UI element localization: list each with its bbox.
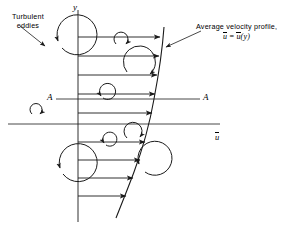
equals-sign: = [229, 32, 234, 41]
turbulent-eddies-line-2: eddies [12, 21, 44, 30]
avg-velocity-profile-label: Average velocity profile, u = u(y) [196, 22, 277, 41]
formula-argument: (y) [241, 32, 250, 41]
turbulent-eddies-label: Turbulent eddies [12, 12, 44, 30]
y-axis-label: y [73, 2, 77, 12]
eddy-large-upper-left [57, 15, 97, 55]
figure-canvas: Turbulent eddies Average velocity profil… [0, 0, 307, 232]
section-label-right: A [203, 92, 209, 102]
avg-profile-formula: u = u(y) [196, 31, 277, 41]
eddy-small-lower-mid [124, 122, 142, 138]
turbulent-eddies-line-1: Turbulent [12, 12, 44, 21]
u-bar-lhs: u [223, 32, 227, 41]
velocity-arrow-group [78, 37, 160, 196]
eddy-lower-right [138, 141, 172, 175]
section-label-left: A [47, 92, 53, 102]
eddy-small-upper-mid [114, 32, 128, 44]
avg-profile-line-1: Average velocity profile, [196, 22, 277, 31]
eddy-tiny-outside [30, 104, 42, 114]
eddy-small-left-mid [100, 83, 116, 99]
eddy-small-lower-left [103, 132, 117, 146]
eddy-mid-right [123, 46, 155, 74]
u-axis-label: u [215, 132, 219, 142]
u-bar-rhs: u [236, 32, 240, 41]
